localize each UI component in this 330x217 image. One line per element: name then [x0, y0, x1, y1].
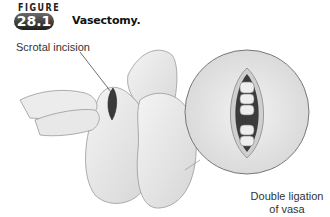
scrotal-incision-label: Scrotal incision — [16, 41, 90, 53]
double-ligation-label: Double ligation of vasa — [242, 190, 330, 216]
vasectomy-illustration — [0, 0, 330, 217]
ligation-line-2: of vasa — [242, 203, 330, 216]
ligation-line-1: Double ligation — [242, 190, 330, 203]
